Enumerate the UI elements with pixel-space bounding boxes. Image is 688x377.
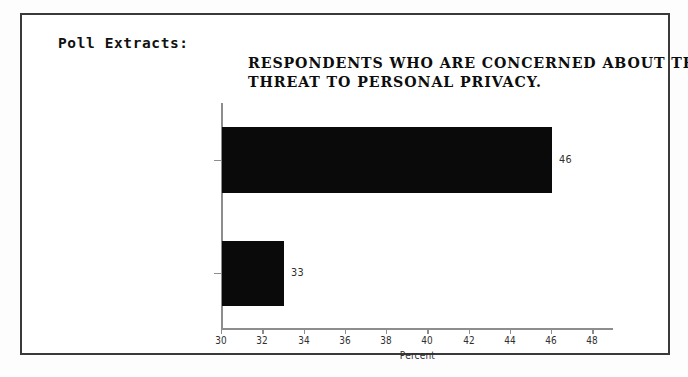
screenshot-page: Poll Extracts: RESPONDENTS WHO ARE CONCE… <box>0 0 688 377</box>
y-axis-tick-somewhat-concerned <box>214 273 222 274</box>
x-axis-tick-label-36: 36 <box>339 334 351 346</box>
x-axis-title-text: Percent <box>399 349 434 361</box>
poll-extract-frame: Poll Extracts: RESPONDENTS WHO ARE CONCE… <box>20 13 670 355</box>
x-axis-tick-label-40: 40 <box>421 334 433 346</box>
chart-title-line-1: RESPONDENTS WHO ARE CONCERNED ABOUT THE <box>248 54 668 73</box>
x-axis-tick-label-38: 38 <box>380 334 392 346</box>
bar-somewhat-concerned <box>222 241 284 306</box>
x-axis-tick-label-30: 30 <box>215 334 227 346</box>
x-axis-line <box>221 328 613 330</box>
y-axis-tick-very-concerned <box>214 160 222 161</box>
value-label-somewhat-concerned: 33 <box>291 266 304 279</box>
chart-title-line-2: THREAT TO PERSONAL PRIVACY. <box>248 73 668 92</box>
poll-extracts-heading: Poll Extracts: <box>58 35 189 51</box>
x-axis-title: Percent <box>221 349 613 361</box>
x-axis-tick-label-32: 32 <box>256 334 268 346</box>
x-axis-tick-label-48: 48 <box>587 334 599 346</box>
x-axis-tick-label-34: 34 <box>298 334 310 346</box>
bar-very-concerned <box>222 127 552 193</box>
value-label-very-concerned: 46 <box>559 153 572 166</box>
x-axis-tick-label-44: 44 <box>504 334 516 346</box>
x-axis-tick-label-46: 46 <box>545 334 557 346</box>
chart-title: RESPONDENTS WHO ARE CONCERNED ABOUT THE … <box>248 54 668 92</box>
x-axis-tick-label-42: 42 <box>463 334 475 346</box>
bar-chart-plot-area: Very Concerned Somewhat Concerned 46 33 … <box>221 103 613 329</box>
